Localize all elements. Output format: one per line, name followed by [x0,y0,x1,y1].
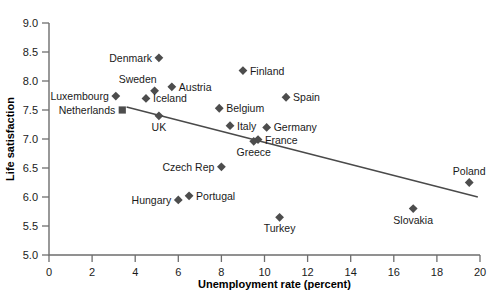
data-point-marker[interactable] [155,53,164,62]
data-point-label: Spain [293,91,320,103]
y-axis-tick-label: 6.0 [23,191,38,203]
data-point-label: UK [152,121,167,133]
data-point-marker[interactable] [217,162,226,171]
y-axis-tick-label: 8.5 [23,46,38,58]
data-point-marker[interactable] [409,204,418,213]
data-point-label: Finland [250,65,285,77]
x-axis-tick-label: 14 [345,266,357,278]
y-axis-tick-label: 5.0 [23,249,38,261]
data-point-label: Czech Rep [162,161,214,173]
y-axis-tick-label: 7.5 [23,104,38,116]
y-axis-title: Life satisfaction [4,97,16,181]
x-axis-tick-label: 18 [431,266,443,278]
data-point-marker[interactable] [119,106,126,113]
data-point-marker[interactable] [465,178,474,187]
data-point-marker[interactable] [155,111,164,120]
data-point-marker[interactable] [111,92,120,101]
x-axis-title: Unemployment rate (percent) [198,278,351,290]
x-axis-tick-label: 16 [388,266,400,278]
data-point-marker[interactable] [226,121,235,130]
data-point-label: Turkey [264,222,296,234]
y-axis-tick-label: 8.0 [23,75,38,87]
x-axis-tick-label: 0 [46,266,52,278]
data-point-label: Austria [179,81,212,93]
data-point-label: Denmark [109,52,152,64]
data-point-label: Luxembourg [50,90,109,102]
data-point-label: Greece [237,146,272,158]
data-point-marker[interactable] [167,82,176,91]
x-axis-tick-label: 6 [175,266,181,278]
x-axis-tick-label: 8 [218,266,224,278]
y-axis-tick-label: 5.5 [23,220,38,232]
data-point-label: Sweden [119,73,157,85]
data-point-label: Hungary [132,194,172,206]
x-axis-tick-label: 20 [474,266,486,278]
data-point-label: France [265,134,298,146]
plot-area: 5.05.56.06.57.07.58.08.59.00246810121416… [0,0,498,294]
x-axis-tick-label: 12 [301,266,313,278]
scatter-chart: 5.05.56.06.57.07.58.08.59.00246810121416… [0,0,498,294]
data-point-label: Slovakia [393,214,433,226]
x-axis-tick-label: 10 [258,266,270,278]
data-point-marker[interactable] [282,93,291,102]
x-axis-tick-label: 2 [89,266,95,278]
data-point-marker[interactable] [239,66,248,75]
data-point-label: Germany [274,121,318,133]
x-axis-tick-label: 4 [132,266,138,278]
data-point-label: Poland [453,165,486,177]
y-axis-tick-label: 9.0 [23,17,38,29]
data-point-marker[interactable] [275,213,284,222]
data-point-label: Belgium [226,102,264,114]
data-point-marker[interactable] [185,191,194,200]
data-point-label: Netherlands [59,104,116,116]
data-point-label: Portugal [196,190,235,202]
data-point-marker[interactable] [215,104,224,113]
y-axis-tick-label: 6.5 [23,162,38,174]
data-point-label: Iceland [153,92,187,104]
y-axis-tick-label: 7.0 [23,133,38,145]
data-point-label: Italy [237,120,257,132]
data-point-marker[interactable] [142,94,151,103]
data-point-marker[interactable] [174,196,183,205]
data-point-marker[interactable] [262,123,271,132]
